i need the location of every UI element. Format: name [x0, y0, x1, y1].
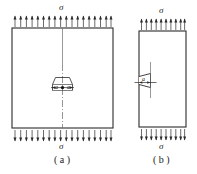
- panel-b-bottom-load-arrows: [140, 129, 186, 140]
- panel-a-caption: ( a ): [54, 155, 70, 165]
- panel-a-top-load-arrows: [14, 16, 113, 27]
- panel-b-crack-label: a: [142, 76, 145, 82]
- panel-a-sigma-top-label: σ: [59, 3, 63, 12]
- panel-b-top-load-arrows: [140, 19, 186, 30]
- panel-a: [12, 16, 113, 142]
- panel-a-crack-label-left: a: [55, 84, 58, 90]
- panel-b-caption: ( b ): [153, 155, 170, 165]
- panel-b-sigma-top-label: σ: [159, 6, 163, 15]
- fracture-mechanics-figure: [0, 0, 197, 174]
- panel-a-bottom-load-arrows: [14, 130, 113, 141]
- panel-a-sigma-bottom-label: σ: [59, 142, 63, 151]
- panel-b-crack-detail: [135, 62, 157, 98]
- panel-a-crack-label-right: a: [67, 84, 70, 90]
- panel-b-sigma-bottom-label: σ: [159, 142, 163, 151]
